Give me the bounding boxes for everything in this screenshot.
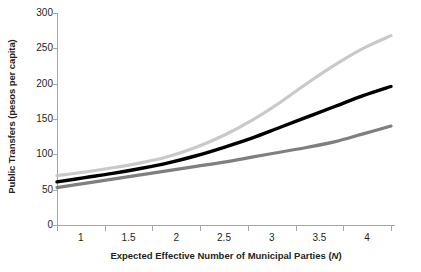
x-tick-mark (296, 226, 297, 231)
chart-curves (0, 0, 421, 272)
y-tick-mark (52, 119, 57, 120)
y-tick-mark (52, 154, 57, 155)
x-tick-mark (105, 226, 106, 231)
x-tick-label: 2 (156, 233, 196, 243)
y-tick-label: 250 (23, 43, 53, 53)
chart-line-upper-curve (57, 36, 391, 176)
x-tick-label: 1.5 (109, 233, 149, 243)
x-axis-line (57, 225, 395, 226)
x-tick-label: 4 (347, 233, 387, 243)
y-axis-title: Public Transfers (pesos per capita) (0, 0, 22, 232)
x-tick-mark (57, 226, 58, 231)
x-tick-label: 3.5 (299, 233, 339, 243)
x-tick-mark (248, 226, 249, 231)
public-transfers-line-chart: Public Transfers (pesos per capita) 0501… (0, 0, 421, 272)
y-tick-label: 300 (23, 8, 53, 18)
y-tick-label: 0 (23, 220, 53, 230)
y-axis-title-text: Public Transfers (pesos per capita) (6, 39, 17, 193)
chart-line-middle-curve (57, 86, 391, 181)
x-tick-label: 3 (252, 233, 292, 243)
y-tick-label: 200 (23, 79, 53, 89)
y-tick-mark (52, 84, 57, 85)
y-tick-label: 100 (23, 149, 53, 159)
y-tick-label: 150 (23, 114, 53, 124)
x-axis-title-symbol: N (332, 250, 339, 261)
x-tick-mark (152, 226, 153, 231)
y-tick-mark (52, 13, 57, 14)
x-tick-mark (200, 226, 201, 231)
y-tick-mark (52, 48, 57, 49)
x-tick-label: 1 (61, 233, 101, 243)
x-tick-label: 2.5 (204, 233, 244, 243)
chart-line-lower-curve (57, 126, 391, 187)
y-axis-tick-labels: 050100150200250300 (20, 0, 53, 272)
y-tick-mark (52, 190, 57, 191)
y-tick-label: 50 (23, 185, 53, 195)
x-tick-mark (391, 226, 392, 231)
x-tick-mark (343, 226, 344, 231)
y-axis-line (57, 13, 58, 226)
x-axis-title: Expected Effective Number of Municipal P… (57, 250, 395, 261)
